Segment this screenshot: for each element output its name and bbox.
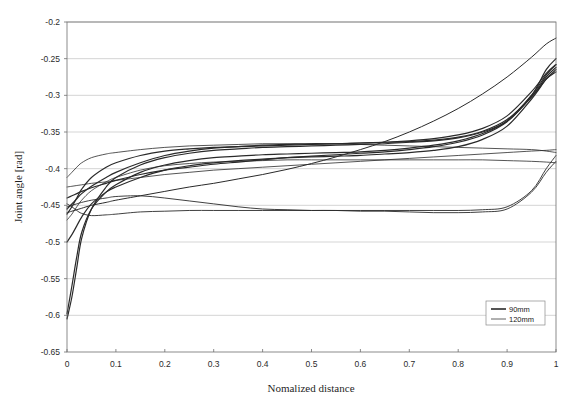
- y-axis-title: Joint angle [rad]: [12, 151, 24, 223]
- y-tick-label: -0.45: [41, 200, 61, 210]
- x-tick-label: 1: [554, 359, 559, 369]
- x-tick-label: 0.5: [306, 359, 318, 369]
- x-tick-label: 0.1: [110, 359, 122, 369]
- y-tick-label: -0.35: [41, 127, 61, 137]
- chart-legend: 90mm120mm: [486, 301, 545, 325]
- joint-angle-line-chart: 00.10.20.30.40.50.60.70.80.91 -0.2-0.25-…: [0, 0, 581, 413]
- x-tick-label: 0.7: [403, 359, 415, 369]
- x-tick-label: 0.2: [159, 359, 171, 369]
- legend-label: 120mm: [509, 315, 534, 324]
- x-tick-label: 0.3: [208, 359, 220, 369]
- y-tick-label: -0.6: [45, 310, 60, 320]
- x-tick-label: 0: [65, 359, 70, 369]
- y-tick-label: -0.55: [41, 274, 61, 284]
- y-tick-label: -0.65: [41, 347, 61, 357]
- y-tick-label: -0.5: [45, 237, 60, 247]
- x-tick-label: 0.4: [257, 359, 269, 369]
- legend-label: 90mm: [509, 305, 530, 314]
- x-tick-label: 0.8: [452, 359, 464, 369]
- chart-figure: 00.10.20.30.40.50.60.70.80.91 -0.2-0.25-…: [0, 0, 581, 413]
- x-axis-title: Nomalized distance: [267, 382, 354, 394]
- y-tick-label: -0.4: [45, 164, 60, 174]
- y-tick-label: -0.3: [45, 90, 60, 100]
- y-tick-label: -0.2: [45, 17, 60, 27]
- x-tick-label: 0.6: [354, 359, 366, 369]
- y-tick-label: -0.25: [41, 54, 61, 64]
- x-tick-label: 0.9: [501, 359, 513, 369]
